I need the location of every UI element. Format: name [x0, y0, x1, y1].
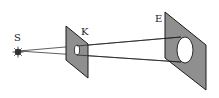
light-source-icon [13, 47, 24, 58]
aperture-hole [74, 45, 79, 55]
diagram-canvas: S K E [0, 0, 219, 98]
light-rays [19, 37, 181, 62]
label-s: S [14, 32, 21, 43]
screen-light-spot [177, 37, 193, 63]
screen-e [165, 12, 206, 90]
label-k: K [81, 26, 89, 37]
label-e: E [155, 13, 162, 24]
